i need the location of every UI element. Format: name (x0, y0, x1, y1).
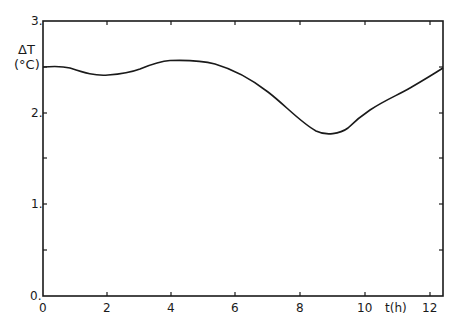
x-tick-label-6: 6 (231, 302, 239, 314)
y-tick-label-2: 2. (31, 107, 42, 119)
y-tick-label-1: 1. (31, 198, 42, 210)
y-axis-label-line2: (°C) (14, 59, 40, 71)
x-axis-label: t(h) (385, 302, 407, 314)
series-line-delta-t (43, 60, 443, 134)
x-tick-label-2: 2 (103, 302, 111, 314)
y-axis-label-line1: ΔT (18, 44, 35, 56)
x-ticks (107, 21, 430, 296)
y-ticks (43, 67, 443, 250)
y-tick-label-3: 3. (31, 15, 42, 27)
plot-frame (43, 21, 443, 296)
x-tick-label-12: 12 (422, 302, 437, 314)
x-tick-label-10: 10 (357, 302, 372, 314)
chart-canvas (0, 0, 462, 330)
x-tick-label-0: 0 (39, 302, 47, 314)
x-tick-label-4: 4 (167, 302, 175, 314)
x-tick-label-8: 8 (296, 302, 304, 314)
